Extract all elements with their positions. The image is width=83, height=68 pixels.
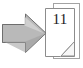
- document-front-page: 11: [46, 9, 75, 57]
- icon-canvas: 11: [0, 0, 83, 68]
- right-arrow-icon[interactable]: [3, 14, 47, 53]
- page-number-label: 11: [53, 11, 68, 27]
- go-to-page-icon[interactable]: 11: [0, 0, 83, 68]
